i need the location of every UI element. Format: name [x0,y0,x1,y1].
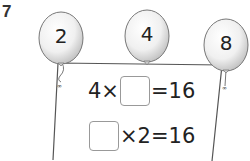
bow-icon: ∞ [222,84,227,91]
equation-2: ×2=16 [88,121,195,151]
equation-1: 4× =16 [88,76,195,106]
equation-1-right: =16 [151,79,195,103]
answer-box-1[interactable] [120,76,150,106]
equation-2-right: ×2=16 [120,124,195,148]
balloon-label-3: 8 [211,31,241,55]
equation-1-left: 4× [88,79,119,103]
bow-icon: ∞ [57,82,62,89]
balloon-label-2: 4 [132,22,162,46]
answer-box-2[interactable] [89,121,119,151]
balloon-label-1: 2 [46,24,76,48]
